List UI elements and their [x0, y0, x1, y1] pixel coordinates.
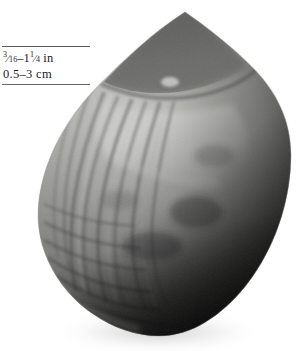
imperial-lower-fraction: 3⁄16 — [3, 51, 17, 65]
caption-rule-top — [2, 46, 90, 47]
caption-rule-bottom — [2, 84, 90, 85]
metric-lower-value: 0.5 — [3, 67, 20, 81]
imperial-upper-denominator: 4 — [36, 55, 40, 64]
metric-unit: cm — [36, 67, 52, 81]
size-metric: 0.5–3 cm — [2, 66, 90, 82]
imperial-unit: in — [43, 51, 53, 65]
size-imperial: 3⁄16–11⁄4 in — [2, 50, 90, 66]
size-caption: 3⁄16–11⁄4 in 0.5–3 cm — [2, 46, 90, 85]
imperial-upper-fraction: 1⁄4 — [30, 51, 40, 65]
metric-upper-value: 3 — [26, 67, 33, 81]
